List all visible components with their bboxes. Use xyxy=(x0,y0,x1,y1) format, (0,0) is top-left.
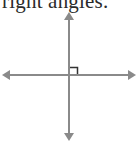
right-arrowhead-icon xyxy=(128,70,136,80)
perpendicular-lines-diagram xyxy=(0,0,139,143)
right-angle-marker-icon xyxy=(70,68,78,75)
down-arrowhead-icon xyxy=(64,133,74,141)
vertical-line xyxy=(64,12,74,141)
left-arrowhead-icon xyxy=(2,70,10,80)
up-arrowhead-icon xyxy=(64,12,74,20)
